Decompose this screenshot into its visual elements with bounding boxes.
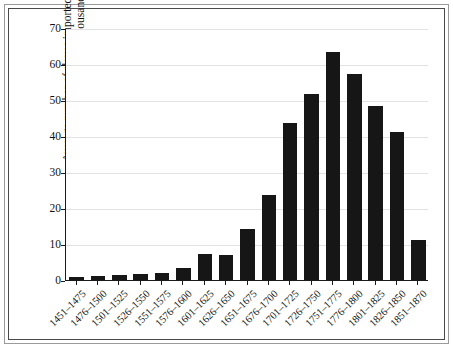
x-tick-mark [332,281,333,285]
bar [176,268,191,280]
bar [390,132,405,280]
x-tick-mark [417,281,418,285]
x-tick-mark [375,281,376,285]
x-tick-mark [396,281,397,285]
x-tick-mark [247,281,248,285]
x-tick-mark [268,281,269,285]
y-tick-label: 50 [21,95,61,107]
bar [326,52,341,280]
y-tick-label: 20 [21,203,61,215]
y-tick-label: 70 [21,23,61,35]
bar [155,273,170,280]
x-tick-mark [182,281,183,285]
bar [283,123,298,280]
x-tick-mark [140,281,141,285]
bar [411,240,426,280]
x-tick-mark [289,281,290,285]
bar [240,229,255,280]
bar [304,94,319,280]
x-tick-mark [225,281,226,285]
y-tick-label: 60 [21,59,61,71]
bar [91,276,106,280]
x-tick-mark [161,281,162,285]
bar [198,254,213,280]
bar [347,74,362,280]
bar [219,255,234,280]
y-tick-label: 30 [21,167,61,179]
bar [69,277,84,280]
x-tick-mark [204,281,205,285]
plot-area [65,29,428,281]
y-tick-mark [61,281,65,282]
bar-series [66,29,428,280]
bar [368,106,383,280]
bar [133,274,148,280]
chart-figure: Average number of slaves imported annual… [0,0,453,348]
x-tick-mark [311,281,312,285]
y-tick-label: 10 [21,239,61,251]
x-tick-mark [118,281,119,285]
bar [262,195,277,280]
bar [112,275,127,280]
x-tick-mark [76,281,77,285]
y-tick-label: 0 [21,275,61,287]
x-tick-mark [353,281,354,285]
y-tick-label: 40 [21,131,61,143]
x-tick-mark [97,281,98,285]
